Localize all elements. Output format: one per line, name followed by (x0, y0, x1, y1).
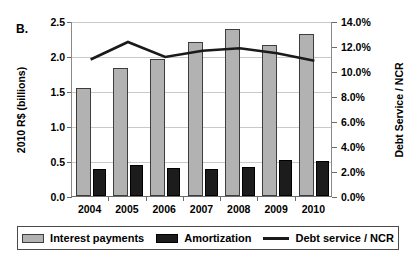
y-tick-label-right: 6.0% (341, 117, 391, 128)
legend-swatch-interest-icon (22, 234, 44, 243)
y-tick-label-right: 4.0% (341, 142, 391, 153)
line-series-debt-service (72, 22, 333, 197)
y-tick-label-left: 2.0 (21, 52, 65, 63)
y-axis-title-right: Debt Service / NCR (393, 45, 405, 175)
x-tick-mark (257, 197, 258, 201)
x-tick-mark (220, 197, 221, 201)
legend-swatch-line-icon (263, 237, 289, 240)
legend-item-debt-service: Debt service / NCR (263, 232, 393, 244)
y-tick-label-right: 0.0% (341, 192, 391, 203)
legend-label-interest-payments: Interest payments (50, 232, 144, 244)
legend-label-amortization: Amortization (184, 232, 251, 244)
legend-item-amortization: Amortization (156, 232, 251, 244)
x-tick-mark (108, 197, 109, 201)
y-tick-label-right: 14.0% (341, 17, 391, 28)
legend-swatch-amortization-icon (156, 234, 178, 243)
y-axis-title-left: 2010 R$ (billions) (15, 45, 27, 175)
y-tick-label-left: 1.5 (21, 87, 65, 98)
y-tick-label-left: 0.0 (21, 192, 65, 203)
y-tick-label-left: 0.5 (21, 157, 65, 168)
y-tick-label-right: 8.0% (341, 92, 391, 103)
y-tick-mark-left (67, 197, 72, 198)
plot-area (71, 22, 332, 197)
x-tick-label: 2010 (290, 203, 336, 215)
y-tick-label-right: 12.0% (341, 42, 391, 53)
y-tick-label-right: 2.0% (341, 167, 391, 178)
legend-item-interest-payments: Interest payments (22, 232, 144, 244)
chart-legend: Interest payments Amortization Debt serv… (17, 226, 399, 250)
y-tick-label-right: 10.0% (341, 67, 391, 78)
x-tick-mark (183, 197, 184, 201)
x-tick-mark (146, 197, 147, 201)
y-tick-mark-right (332, 197, 337, 198)
legend-label-debt-service: Debt service / NCR (295, 232, 393, 244)
y-tick-label-left: 2.5 (21, 17, 65, 28)
y-tick-label-left: 1.0 (21, 122, 65, 133)
x-tick-mark (295, 197, 296, 201)
figure-panel-b: B. 2010 R$ (billions) Debt Service / NCR… (0, 0, 414, 253)
